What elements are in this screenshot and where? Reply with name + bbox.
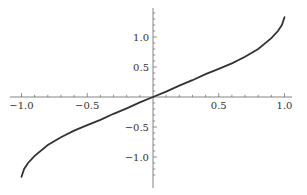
chart: −1.0−0.50.51.01.00.5−0.5−1.0 [0,0,307,195]
x-tick-label: 0.5 [211,100,227,111]
x-tick-label: −0.5 [75,100,99,111]
y-tick-label: 1.0 [133,32,149,43]
y-tick-label: −0.5 [125,122,149,133]
x-tick-label: −1.0 [9,100,33,111]
y-tick-label: 0.5 [133,62,149,73]
y-tick-label: −1.0 [125,152,149,163]
x-tick-label: 1.0 [277,100,293,111]
